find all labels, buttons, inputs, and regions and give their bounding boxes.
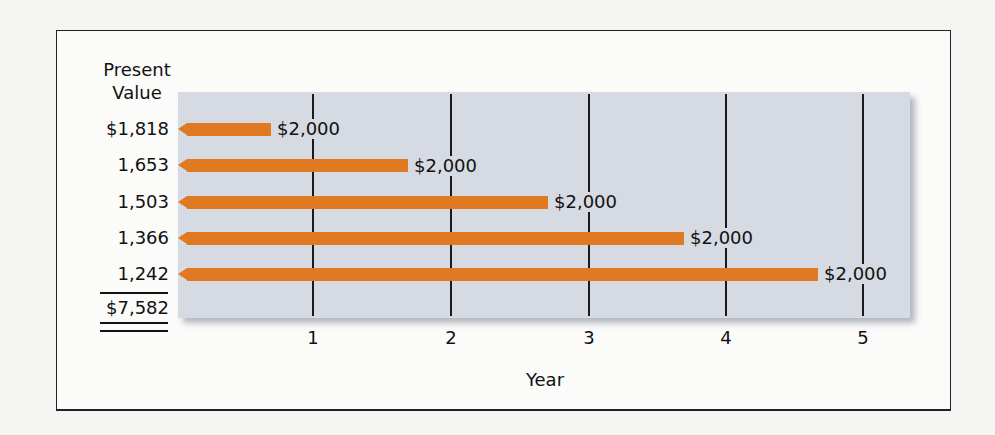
gridline-year-4 [725,94,727,316]
cash-flow-label-year-4: $2,000 [689,228,754,248]
discount-arrow-year-1 [187,123,271,136]
sum-rule [100,292,168,294]
x-tick-4: 4 [711,328,741,348]
discount-arrow-year-4 [187,232,684,245]
x-tick-1: 1 [298,328,328,348]
present-value-header: Present Value [92,58,182,104]
discount-arrow-year-3 [187,196,548,209]
pv-label-year-2: 1,653 [89,155,169,175]
header-line-1: Present [92,58,182,81]
pv-label-year-1: $1,818 [89,119,169,139]
cash-flow-label-year-3: $2,000 [553,192,618,212]
pv-label-year-5: 1,242 [89,264,169,284]
x-axis-title: Year [505,369,585,391]
x-tick-3: 3 [574,328,604,348]
total-double-rule-top [100,322,168,324]
pv-label-year-4: 1,366 [89,228,169,248]
discount-arrow-year-2 [187,159,408,172]
figure: Present Value $1,818 1,653 1,503 1,366 1… [0,0,995,435]
x-tick-2: 2 [436,328,466,348]
total-present-value: $7,582 [89,298,169,318]
cash-flow-label-year-2: $2,000 [413,156,478,176]
header-line-2: Value [92,81,182,104]
pv-label-year-3: 1,503 [89,192,169,212]
total-double-rule-bottom [100,330,168,332]
discount-arrow-year-5 [187,268,818,281]
cash-flow-label-year-5: $2,000 [823,264,888,284]
cash-flow-label-year-1: $2,000 [276,119,341,139]
x-tick-5: 5 [848,328,878,348]
